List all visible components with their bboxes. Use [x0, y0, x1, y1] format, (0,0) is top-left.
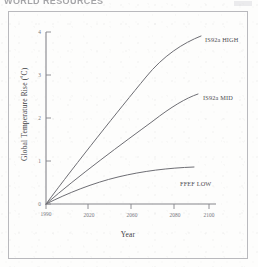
y-tick-label: 4	[38, 29, 41, 35]
page-header-text: WORLD RESOURCES	[4, 0, 154, 6]
y-axis-tick-labels: 4 3 2 1 0	[38, 29, 41, 207]
series-label-is92a-mid: IS92a MID	[203, 94, 233, 101]
x-tick-label: 2020	[84, 212, 95, 218]
series-label-ffef-low: FFEF LOW	[180, 180, 211, 187]
temperature-rise-line-chart: 4 3 2 1 0 1990 2020 2060 2080 2100 IS92a	[8, 11, 248, 259]
page-header-fragment: WORLD RESOURCES	[4, 0, 154, 7]
x-axis-tick-labels: 1990 2020 2060 2080 2100	[41, 211, 215, 218]
y-tick-label: 1	[38, 158, 41, 164]
x-axis-title: Year	[121, 230, 136, 239]
scanned-page: WORLD RESOURCES 4 3 2 1 0	[0, 0, 258, 267]
y-axis-ticks	[46, 32, 51, 204]
y-tick-label: 0	[38, 201, 41, 207]
page-header-corner-mark	[234, 1, 252, 6]
series-label-is92a-high: IS92a HIGH	[205, 36, 239, 43]
y-axis-title: Global Temperature Rise (°C)	[20, 67, 29, 161]
y-axis-title-base: Global Temperature Rise (	[20, 77, 29, 161]
x-tick-label: 1990	[41, 211, 52, 217]
y-tick-label: 2	[38, 115, 41, 121]
x-tick-label: 2080	[170, 212, 181, 218]
x-tick-label: 2100	[204, 212, 215, 218]
y-axis-title-unit: C)	[20, 67, 29, 75]
x-tick-label: 2060	[127, 212, 138, 218]
series-line-is92a-mid	[46, 94, 198, 204]
x-axis-ticks	[46, 204, 209, 209]
y-tick-label: 3	[38, 72, 41, 78]
series-line-is92a-high	[46, 36, 201, 204]
